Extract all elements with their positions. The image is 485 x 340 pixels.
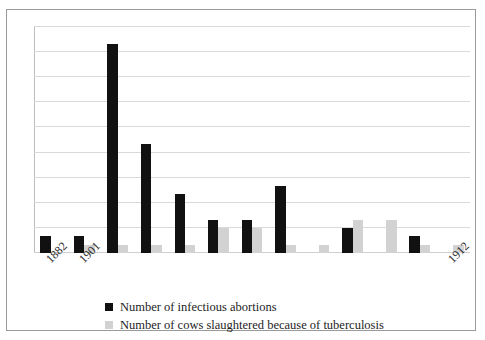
legend-swatch-icon bbox=[105, 303, 113, 311]
legend-label: Number of cows slaughtered because of tu… bbox=[120, 319, 384, 332]
gridline bbox=[34, 152, 470, 153]
legend-swatch-icon bbox=[105, 321, 113, 329]
bar bbox=[185, 245, 195, 253]
gridline bbox=[34, 76, 470, 77]
chart-legend: Number of infectious abortionsNumber of … bbox=[105, 299, 465, 335]
bar bbox=[208, 220, 218, 253]
plot-inner bbox=[34, 27, 470, 253]
gridline bbox=[34, 177, 470, 178]
gridline bbox=[34, 126, 470, 127]
chart-figure: 0369258147 188219011912 Number of infect… bbox=[0, 0, 485, 340]
gridline bbox=[34, 26, 470, 27]
bar bbox=[319, 245, 329, 253]
bar bbox=[342, 228, 352, 253]
bar bbox=[151, 245, 161, 253]
bar bbox=[252, 228, 262, 253]
bar bbox=[175, 194, 185, 253]
bar bbox=[242, 220, 252, 253]
bar bbox=[107, 44, 117, 253]
bar bbox=[141, 144, 151, 253]
legend-item: Number of cows slaughtered because of tu… bbox=[105, 317, 465, 333]
bar bbox=[409, 236, 419, 253]
gridline bbox=[34, 51, 470, 52]
gridline bbox=[34, 202, 470, 203]
bar bbox=[218, 228, 228, 253]
bar bbox=[386, 220, 396, 253]
plot-area bbox=[34, 27, 470, 253]
bar bbox=[118, 245, 128, 253]
bar bbox=[275, 186, 285, 253]
bar bbox=[420, 245, 430, 253]
bar bbox=[353, 220, 363, 253]
legend-label: Number of infectious abortions bbox=[120, 301, 277, 314]
bar bbox=[286, 245, 296, 253]
x-axis-tick-labels: 188219011912 bbox=[34, 256, 470, 296]
gridline bbox=[34, 101, 470, 102]
legend-item: Number of infectious abortions bbox=[105, 299, 465, 315]
